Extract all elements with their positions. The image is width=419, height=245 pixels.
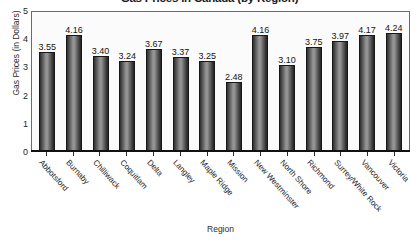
bar-chart: Gas Prices in Canada (by Region) Gas Pri… [0,0,419,245]
bar[interactable]: 3.97 [332,41,348,151]
x-label-slot: Abbotsford [33,156,60,218]
x-label-slot: New Westminster [247,156,274,218]
bar[interactable]: 3.37 [173,57,189,151]
bar[interactable]: 3.10 [279,65,295,151]
bar[interactable]: 3.75 [306,47,322,151]
bar-slot: 4.16 [247,12,274,151]
y-axis-tick-label: 4 [23,34,28,44]
bar[interactable]: 3.25 [199,61,215,151]
bar-value-label: 3.67 [144,39,164,49]
bar[interactable]: 4.17 [359,35,375,151]
y-axis-tick-labels: 012345 [14,11,28,152]
x-label-slot: Vancouver [354,156,381,218]
y-axis-tick-label: 2 [23,91,28,101]
chart-title: Gas Prices in Canada (by Region) [0,0,419,4]
bar-slot: 4.16 [61,12,88,151]
bar-value-label: 3.37 [171,47,191,57]
bar-slot: 2.48 [220,12,247,151]
x-axis-category-label: Delta [145,158,164,178]
x-label-slot: Chilliwack [87,156,114,218]
bar[interactable]: 4.16 [252,35,268,151]
bar-slot: 4.24 [380,12,407,151]
x-label-slot: Burnaby [60,156,87,218]
y-axis-tick-label: 3 [23,62,28,72]
bar-slot: 4.17 [354,12,381,151]
bar-slot: 3.40 [87,12,114,151]
bar-value-label: 3.10 [277,55,297,65]
x-label-slot: Maple Ridge [194,156,221,218]
plot-area: 3.554.163.403.243.673.373.252.484.163.10… [31,11,410,152]
bar-value-label: 3.75 [304,37,324,47]
bar[interactable]: 3.24 [119,61,135,151]
bar[interactable]: 3.55 [39,52,55,151]
bar-value-label: 4.16 [251,25,271,35]
bar-slot: 3.67 [141,12,168,151]
bar-value-label: 4.16 [64,25,84,35]
bar-value-label: 3.25 [197,51,217,61]
x-axis-title: Region [31,224,410,234]
bar-value-label: 3.97 [331,31,351,41]
bar[interactable]: 4.16 [66,35,82,151]
x-label-slot: Richmond [301,156,328,218]
y-axis-tick-label: 1 [23,119,28,129]
bar[interactable]: 4.24 [386,33,402,151]
bar-slot: 3.75 [300,12,327,151]
bar-slot: 3.24 [114,12,141,151]
bar-slot: 3.10 [274,12,301,151]
x-label-slot: Surrey/White Rock [328,156,355,218]
x-label-slot: Coquitlam [113,156,140,218]
x-label-slot: North Shore [274,156,301,218]
bars-container: 3.554.163.403.243.673.373.252.484.163.10… [32,12,409,151]
bar-slot: 3.37 [167,12,194,151]
bar-value-label: 3.40 [91,46,111,56]
x-label-slot: Delta [140,156,167,218]
bar[interactable]: 3.67 [146,49,162,151]
y-axis-tick-label: 5 [23,6,28,16]
bar-slot: 3.97 [327,12,354,151]
bar-value-label: 4.17 [357,25,377,35]
x-axis-category-labels: AbbotsfordBurnabyChilliwackCoquitlamDelt… [31,156,410,218]
x-axis-category-label: Victoria [386,158,410,184]
bar-value-label: 3.24 [117,51,137,61]
bar-value-label: 2.48 [224,72,244,82]
x-label-slot: Victoria [381,156,408,218]
bar[interactable]: 3.40 [93,56,109,151]
bar-value-label: 4.24 [384,23,404,33]
bar-value-label: 3.55 [38,42,58,52]
y-axis-tick-label: 0 [23,147,28,157]
bar[interactable]: 2.48 [226,82,242,151]
bar-slot: 3.55 [34,12,61,151]
bar-slot: 3.25 [194,12,221,151]
x-label-slot: Langley [167,156,194,218]
x-label-slot: Mission [220,156,247,218]
